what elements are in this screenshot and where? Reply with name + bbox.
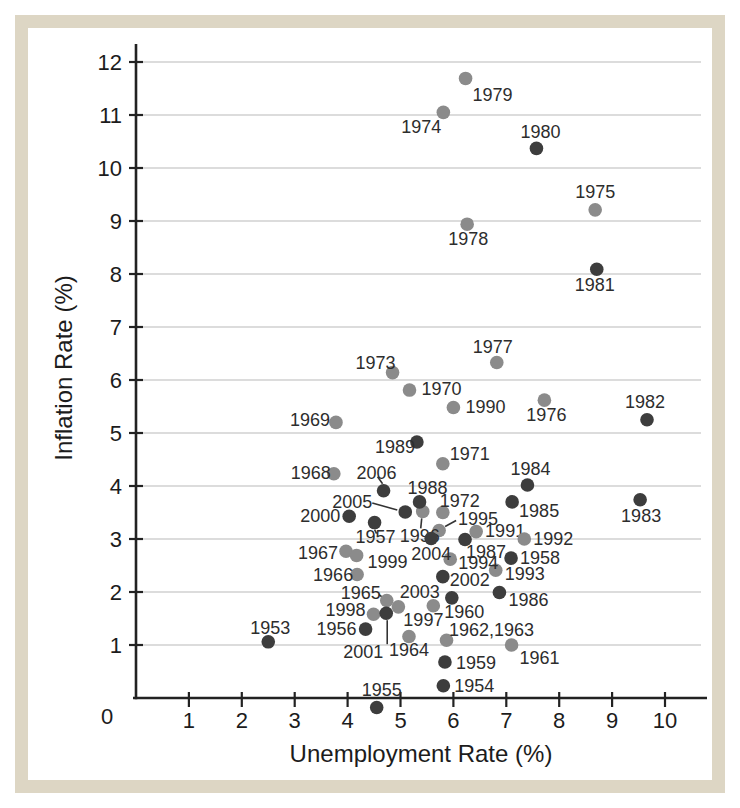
- point-label-1957: 1957: [356, 527, 396, 547]
- x-tick-label-2: 2: [236, 708, 248, 733]
- y-tick-label-3: 3: [110, 527, 122, 552]
- point-label-1982: 1982: [625, 392, 665, 412]
- data-point-1998: [367, 607, 381, 621]
- data-point-1970: [403, 383, 417, 397]
- y-tick-label-9: 9: [110, 209, 122, 234]
- x-tick-label-1: 1: [183, 708, 195, 733]
- data-point-1971: [436, 457, 450, 471]
- y-tick-label-11: 11: [99, 103, 122, 128]
- point-label-1974: 1974: [401, 117, 441, 137]
- data-point-1990: [447, 401, 461, 415]
- data-point-1980: [530, 142, 544, 156]
- point-label-1967: 1967: [298, 543, 338, 563]
- point-label-1964: 1964: [389, 640, 429, 660]
- x-axis-title: Unemployment Rate (%): [290, 740, 553, 767]
- data-point-1999: [350, 549, 364, 563]
- data-point-1969: [329, 416, 343, 430]
- origin-tick-label: 0: [101, 704, 113, 729]
- y-tick-label-10: 10: [98, 156, 122, 181]
- point-label-1955: 1955: [362, 680, 402, 700]
- x-tick-label-7: 7: [500, 708, 512, 733]
- point-label-1989: 1989: [375, 437, 415, 457]
- point-label-1987: 1987: [466, 542, 506, 562]
- point-label-1973: 1973: [356, 353, 396, 373]
- point-label-1961: 1961: [520, 648, 560, 668]
- point-label-1988: 1988: [408, 478, 448, 498]
- textbook-figure-page: 123456789101234567891011120196019611962,…: [0, 0, 740, 808]
- data-point-1992: [517, 532, 531, 546]
- data-point-1982: [640, 413, 654, 427]
- point-label-1975: 1975: [575, 182, 615, 202]
- point-label-1985: 1985: [519, 501, 559, 521]
- point-label-1958: 1958: [520, 548, 560, 568]
- data-point-2003: [445, 591, 459, 605]
- y-tick-label-6: 6: [110, 368, 122, 393]
- point-label-1956: 1956: [317, 619, 357, 639]
- point-label-1962,1963: 1962,1963: [449, 620, 534, 640]
- data-point-2001: [379, 606, 393, 620]
- data-point-1958: [504, 551, 518, 565]
- phillips-curve-scatter-chart: 123456789101234567891011120196019611962,…: [0, 0, 740, 808]
- data-point-1985: [505, 495, 519, 509]
- y-tick-label-5: 5: [110, 421, 122, 446]
- point-label-1960: 1960: [444, 602, 484, 622]
- data-point-1975: [588, 203, 602, 217]
- data-point-2005: [398, 505, 412, 519]
- point-label-1959: 1959: [456, 653, 496, 673]
- data-point-2006: [377, 484, 391, 498]
- point-label-1980: 1980: [520, 122, 560, 142]
- x-tick-label-5: 5: [394, 708, 406, 733]
- point-label-2005: 2005: [332, 492, 372, 512]
- data-point-1984: [521, 478, 535, 492]
- point-label-2006: 2006: [357, 463, 397, 483]
- point-label-1983: 1983: [621, 506, 661, 526]
- point-label-1998: 1998: [325, 600, 365, 620]
- point-label-1977: 1977: [473, 337, 513, 357]
- point-label-2002: 2002: [450, 570, 490, 590]
- data-point-1981: [590, 262, 604, 276]
- point-label-2001: 2001: [343, 642, 383, 662]
- point-label-1976: 1976: [526, 405, 566, 425]
- y-tick-label-12: 12: [98, 50, 122, 75]
- data-point-1955: [370, 701, 384, 715]
- y-tick-label-8: 8: [110, 262, 122, 287]
- point-label-1978: 1978: [448, 229, 488, 249]
- point-label-1954: 1954: [454, 676, 494, 696]
- x-tick-label-4: 4: [341, 708, 353, 733]
- x-tick-label-10: 10: [653, 708, 677, 733]
- point-label-1999: 1999: [368, 552, 408, 572]
- point-label-1979: 1979: [473, 85, 513, 105]
- y-tick-label-2: 2: [110, 580, 122, 605]
- x-tick-label-8: 8: [553, 708, 565, 733]
- point-label-1992: 1992: [533, 529, 573, 549]
- leader-line-1995: [445, 521, 456, 527]
- point-label-1968: 1968: [291, 463, 331, 483]
- data-point-1979: [459, 72, 473, 86]
- x-tick-label-6: 6: [447, 708, 459, 733]
- point-label-1971: 1971: [450, 444, 490, 464]
- y-tick-label-4: 4: [110, 474, 122, 499]
- point-label-1990: 1990: [465, 397, 505, 417]
- point-label-1997: 1997: [403, 610, 443, 630]
- y-tick-label-7: 7: [110, 315, 122, 340]
- y-axis-title: Inflation Rate (%): [50, 275, 77, 460]
- point-label-1981: 1981: [575, 275, 615, 295]
- x-tick-label-3: 3: [289, 708, 301, 733]
- point-label-1966: 1966: [313, 565, 353, 585]
- y-tick-label-1: 1: [110, 633, 122, 658]
- data-point-1961: [505, 638, 519, 652]
- data-point-1977: [490, 356, 504, 370]
- point-label-1969: 1969: [290, 410, 330, 430]
- figure-frame-border: [22, 22, 719, 787]
- point-label-1986: 1986: [508, 590, 548, 610]
- data-point-1956: [359, 622, 373, 636]
- point-label-1953: 1953: [250, 618, 290, 638]
- point-label-1995: 1995: [458, 509, 498, 529]
- point-label-1970: 1970: [421, 379, 461, 399]
- data-point-2004: [424, 532, 438, 546]
- x-tick-label-9: 9: [606, 708, 618, 733]
- data-point-1954: [437, 679, 451, 693]
- data-point-1965: [380, 594, 394, 608]
- point-label-1984: 1984: [510, 459, 550, 479]
- data-point-1983: [633, 493, 647, 507]
